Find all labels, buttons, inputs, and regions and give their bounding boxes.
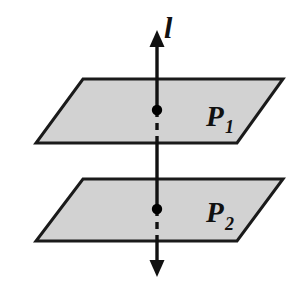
plane-p2-label-main: P [205,196,224,228]
intersection-point-p1 [152,105,162,115]
diagram-canvas: l P 1 P 2 [0,0,306,295]
geometry-figure: l P 1 P 2 [0,0,306,295]
line-arrowhead-up [150,30,165,47]
line-label-l: l [164,11,173,44]
line-arrowhead-down [150,260,165,277]
plane-p2-label-subscript: 2 [224,214,234,234]
plane-p1-label-subscript: 1 [225,117,234,137]
intersection-point-p2 [152,204,162,214]
plane-p1-label-main: P [205,100,224,132]
